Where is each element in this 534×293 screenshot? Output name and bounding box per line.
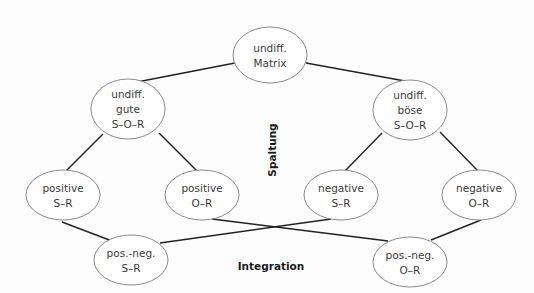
node-label-line: S–O–R	[112, 118, 145, 130]
node-neg_sr: negativeS–R	[304, 170, 378, 220]
edge-gute-to-pos_or	[159, 133, 197, 171]
node-neg_or: negativeO–R	[442, 170, 516, 220]
node-label-line: gute	[116, 103, 140, 115]
node-label-line: O–R	[400, 264, 421, 276]
node-label-line: S–R	[331, 197, 350, 209]
spaltung-label: Spaltung	[266, 123, 278, 176]
node-label-line: negative	[318, 182, 364, 194]
node-ellipse	[373, 237, 447, 287]
node-label-line: S–R	[53, 197, 72, 209]
node-label-line: S–R	[121, 262, 140, 274]
node-pos_sr: positiveS–R	[26, 170, 100, 220]
node-posneg_or: pos.-neg.O–R	[373, 237, 447, 287]
node-label-line: positive	[42, 182, 83, 194]
splitting-integration-diagram: undiff.Matrixundiff.guteS–O–Rundiff.böse…	[0, 0, 534, 293]
node-label-line: S–O–R	[394, 119, 427, 131]
edge-pos_sr-to-posneg_sr	[62, 222, 112, 241]
node-ellipse	[233, 27, 307, 83]
node-label-line: O–R	[192, 197, 213, 209]
node-label-line: undiff.	[253, 42, 286, 54]
edge-neg_or-to-posneg_or	[431, 220, 481, 240]
edge-gute-to-pos_sr	[66, 134, 103, 171]
node-ellipse	[442, 170, 516, 220]
node-label-line: O–R	[469, 197, 490, 209]
node-label-line: Matrix	[253, 57, 286, 69]
edge-boese-to-neg_sr	[345, 133, 382, 171]
node-label-line: pos.-neg.	[386, 249, 435, 261]
node-ellipse	[304, 170, 378, 220]
edge-boese-to-neg_or	[440, 132, 478, 171]
node-boese: undiff.böseS–O–R	[373, 80, 447, 140]
node-label-line: böse	[397, 104, 422, 116]
integration-label: Integration	[238, 260, 305, 272]
edge-matrix-to-boese	[306, 63, 405, 81]
node-ellipse	[26, 170, 100, 220]
node-label-line: undiff.	[393, 89, 426, 101]
node-ellipse	[165, 170, 239, 220]
node-gute: undiff.guteS–O–R	[91, 79, 165, 139]
node-label-line: positive	[181, 182, 222, 194]
node-matrix: undiff.Matrix	[233, 27, 307, 83]
edge-matrix-to-gute	[137, 63, 235, 82]
diagram-canvas: undiff.Matrixundiff.guteS–O–Rundiff.böse…	[0, 0, 534, 293]
node-ellipse	[94, 235, 168, 285]
node-posneg_sr: pos.-neg.S–R	[94, 235, 168, 285]
node-label-line: undiff.	[111, 88, 144, 100]
edge-pos_or-to-posneg_or	[212, 219, 388, 241]
node-label-line: pos.-neg.	[107, 247, 156, 259]
node-label-line: negative	[456, 182, 502, 194]
node-pos_or: positiveO–R	[165, 170, 239, 220]
